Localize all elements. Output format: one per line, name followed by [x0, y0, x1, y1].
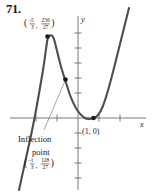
inflection-coord-comma: , — [35, 162, 37, 170]
local-maximum-point-marker — [45, 34, 50, 39]
root-touch-point-marker — [91, 116, 96, 121]
max-label-y-denominator: 27 — [43, 24, 49, 30]
root-label: (1, 0) — [82, 127, 100, 136]
x-axis-label: x — [139, 119, 144, 129]
local-maximum-label: ( − 5 3 , 256 27 ) — [24, 17, 54, 31]
inflection-note-line2: point — [32, 147, 50, 157]
inflection-coord-open-paren: ( — [24, 158, 27, 169]
max-label-open-paren: ( — [24, 18, 27, 29]
inflection-leader-line — [44, 81, 65, 130]
inflection-coord-close-paren: ) — [51, 158, 54, 169]
max-label-x-numerator: 5 — [31, 17, 34, 23]
max-label-close-paren: ) — [51, 18, 54, 29]
cubic-function-graph: y x ( − 5 3 , 256 27 ) (1, 0) Inflection… — [0, 0, 152, 193]
max-label-x-denominator: 3 — [31, 24, 34, 30]
inflection-coord-label: ( − 1 3 , 128 27 ) — [24, 157, 54, 171]
max-label-y-numerator: 256 — [42, 17, 50, 23]
inflection-coord-y-denominator: 27 — [43, 164, 49, 170]
inflection-coord-x-denominator: 3 — [31, 164, 34, 170]
inflection-note-line1: Inflection — [18, 134, 52, 144]
inflection-note: Inflection point ( − 1 3 , 128 27 ) — [18, 134, 54, 170]
y-axis-label: y — [80, 14, 85, 24]
max-label-comma: , — [36, 22, 38, 30]
inflection-point-marker — [63, 77, 68, 82]
inflection-coord-x-numerator: 1 — [31, 157, 34, 163]
inflection-coord-y-numerator: 128 — [41, 157, 49, 163]
